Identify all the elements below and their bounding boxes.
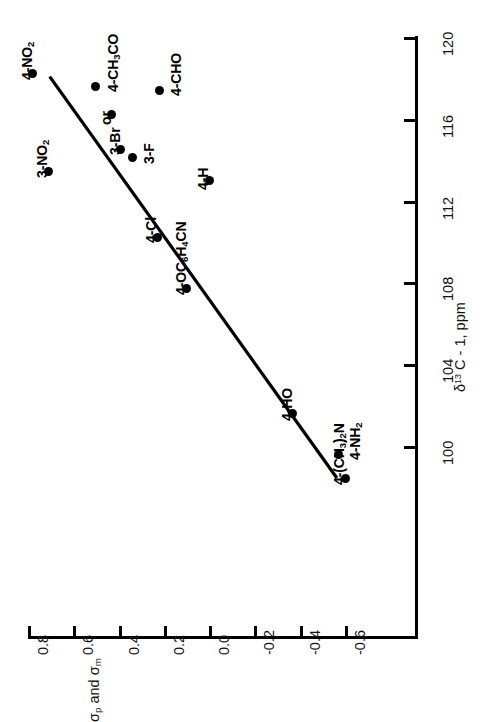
sigma-tick	[300, 626, 303, 637]
sigma-tick-label: 0.0	[216, 635, 232, 655]
sigma-tick-label: 0.6	[80, 635, 96, 655]
delta-axis-title: δ13 C - 1, ppm	[452, 302, 468, 392]
data-point-label: 4-H	[195, 168, 211, 190]
delta-tick-label: 120	[440, 32, 456, 56]
delta-tick	[404, 446, 415, 449]
sigma-tick-label: 0.2	[171, 635, 187, 655]
sigma-tick-label: 0.8	[35, 635, 51, 655]
delta-tick-label: 112	[440, 196, 456, 219]
sigma-axis-title: σp and σm	[86, 658, 103, 722]
delta-tick	[404, 364, 415, 367]
data-point-label: 4-OC6H4CN	[173, 221, 190, 295]
regression-line	[0, 0, 480, 722]
data-point-label: or	[98, 111, 114, 125]
data-point-label: 4-NH2	[347, 423, 364, 460]
data-point-label: 3-Br	[107, 128, 123, 156]
data-point-label: 4-CH3CO	[105, 34, 122, 92]
delta-tick	[404, 37, 415, 40]
data-point	[91, 82, 100, 91]
data-point-label: 3-F	[141, 143, 157, 164]
sigma-tick	[164, 626, 167, 637]
sigma-tick	[209, 626, 212, 637]
delta-tick-label: 108	[440, 277, 456, 301]
delta-tick	[404, 201, 415, 204]
sigma-tick-label: -0.2	[261, 630, 277, 655]
sigma-tick-label: -0.6	[352, 630, 368, 655]
data-point-label: 4-HO	[279, 388, 295, 421]
sigma-tick	[345, 626, 348, 637]
data-point	[155, 86, 164, 95]
data-point-label: 4-(CH3)2N	[331, 423, 348, 485]
sigma-tick-label: -0.4	[307, 630, 323, 655]
data-point-label: 4-CHO	[168, 53, 184, 96]
chart-canvas: 0.80.60.40.20.0-0.2-0.4-0.6 120116112108…	[0, 0, 480, 722]
data-point-label: 4-NO2	[19, 42, 36, 80]
delta-tick	[404, 119, 415, 122]
data-point-label: 4-Cl	[143, 217, 159, 243]
sigma-tick	[28, 626, 31, 637]
sigma-tick	[254, 626, 257, 637]
sigma-tick	[73, 626, 76, 637]
delta-tick-label: 100	[440, 441, 456, 465]
delta-tick	[404, 282, 415, 285]
delta-tick-label: 116	[440, 115, 456, 138]
sigma-tick-label: 0.4	[126, 635, 142, 655]
data-point-label: 3-NO2	[34, 140, 51, 178]
sigma-tick	[119, 626, 122, 637]
delta-axis-line	[415, 36, 418, 638]
data-point	[128, 153, 137, 162]
